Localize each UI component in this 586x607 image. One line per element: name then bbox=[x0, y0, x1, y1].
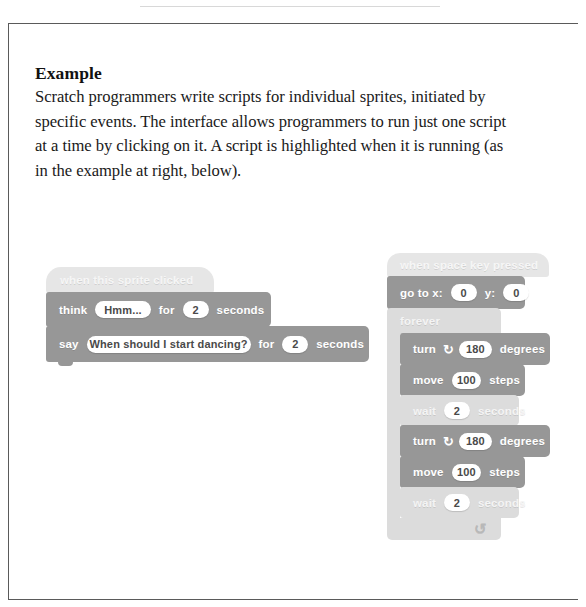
page-top-rule bbox=[140, 6, 440, 7]
goto-x-input[interactable]: 0 bbox=[451, 284, 477, 301]
think-text-input[interactable]: Hmm... bbox=[95, 301, 151, 318]
block-notch bbox=[58, 361, 73, 366]
goto-label-start: go to x: bbox=[395, 287, 448, 299]
move-block[interactable]: move 100 steps bbox=[400, 364, 525, 396]
script-right-running[interactable]: when space key pressed go to x: 0 y: 0 f… bbox=[387, 253, 549, 540]
loop-arrow-icon: ↺ bbox=[474, 518, 487, 540]
wait-label-start: wait bbox=[408, 405, 441, 417]
say-label-start: say bbox=[54, 338, 84, 350]
hat-block-label: when this sprite clicked bbox=[55, 274, 198, 286]
wait-seconds-input[interactable]: 2 bbox=[444, 494, 470, 511]
turn-clockwise-icon: ↻ bbox=[441, 342, 456, 357]
forever-body: turn ↻ 180 degrees move 100 steps wait 2… bbox=[400, 333, 550, 518]
wait-label-end: seconds bbox=[473, 405, 531, 417]
say-seconds-input[interactable]: 2 bbox=[282, 336, 308, 353]
turn-label-start: turn bbox=[408, 343, 441, 355]
wait-label-start: wait bbox=[408, 497, 441, 509]
go-to-xy-block[interactable]: go to x: 0 y: 0 bbox=[387, 276, 525, 309]
move-steps-input[interactable]: 100 bbox=[452, 464, 482, 481]
think-label-mid: for bbox=[154, 304, 180, 316]
move-label-end: steps bbox=[484, 374, 525, 386]
move-block[interactable]: move 100 steps bbox=[400, 456, 525, 488]
turn-label-end: degrees bbox=[495, 435, 550, 447]
example-text-area: Example Scratch programmers write script… bbox=[35, 62, 535, 183]
turn-clockwise-icon: ↻ bbox=[441, 434, 456, 449]
wait-block[interactable]: wait 2 seconds bbox=[400, 395, 519, 426]
think-label-end: seconds bbox=[212, 304, 270, 316]
turn-label-start: turn bbox=[408, 435, 441, 447]
wait-seconds-input[interactable]: 2 bbox=[444, 402, 470, 419]
move-label-end: steps bbox=[484, 466, 525, 478]
say-text-input[interactable]: When should I start dancing? bbox=[87, 336, 251, 353]
hat-block-label: when space key pressed bbox=[395, 259, 543, 271]
page-title: Example bbox=[35, 62, 535, 84]
say-label-mid: for bbox=[254, 338, 280, 350]
turn-block[interactable]: turn ↻ 180 degrees bbox=[400, 425, 550, 457]
think-block[interactable]: think Hmm... for 2 seconds bbox=[46, 292, 271, 327]
example-callout-frame: Example Scratch programmers write script… bbox=[8, 23, 578, 600]
turn-label-end: degrees bbox=[495, 343, 550, 355]
hat-block-when-sprite-clicked[interactable]: when this sprite clicked bbox=[46, 267, 214, 293]
move-steps-input[interactable]: 100 bbox=[452, 372, 482, 389]
hat-block-when-key-pressed[interactable]: when space key pressed bbox=[387, 253, 549, 277]
wait-block[interactable]: wait 2 seconds bbox=[400, 487, 519, 518]
forever-loop-block[interactable]: forever turn ↻ 180 degrees move 100 step… bbox=[387, 308, 507, 540]
forever-footer[interactable]: ↺ bbox=[387, 518, 501, 540]
turn-block[interactable]: turn ↻ 180 degrees bbox=[400, 333, 550, 365]
wait-label-end: seconds bbox=[473, 497, 531, 509]
turn-degrees-input[interactable]: 180 bbox=[459, 341, 492, 358]
say-label-end: seconds bbox=[311, 338, 369, 350]
forever-spine bbox=[387, 333, 400, 518]
move-label-start: move bbox=[408, 466, 449, 478]
think-seconds-input[interactable]: 2 bbox=[183, 301, 209, 318]
goto-label-mid: y: bbox=[480, 287, 501, 299]
forever-header[interactable]: forever bbox=[387, 308, 501, 334]
turn-degrees-input[interactable]: 180 bbox=[459, 433, 492, 450]
example-body-text: Scratch programmers write scripts for in… bbox=[35, 85, 507, 183]
script-left-inactive[interactable]: when this sprite clicked think Hmm... fo… bbox=[46, 267, 369, 362]
move-label-start: move bbox=[408, 374, 449, 386]
forever-label: forever bbox=[395, 315, 445, 327]
think-label-start: think bbox=[54, 304, 92, 316]
say-block[interactable]: say When should I start dancing? for 2 s… bbox=[46, 326, 369, 362]
goto-y-input[interactable]: 0 bbox=[503, 284, 529, 301]
